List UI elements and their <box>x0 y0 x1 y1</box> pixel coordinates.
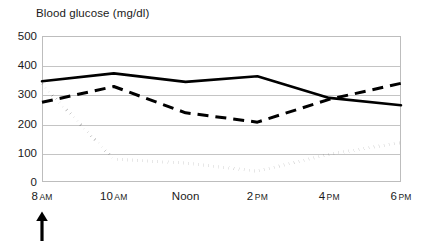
arrow-up-icon <box>34 210 50 242</box>
x-tick-6-pm: 6PM <box>390 190 411 202</box>
y-tick-100: 100 <box>3 147 37 159</box>
y-tick-0: 0 <box>3 176 37 188</box>
gridline-400 <box>43 66 400 67</box>
plot-area <box>42 36 401 182</box>
y-axis-tick-labels: 500 400 300 200 100 0 <box>0 36 37 182</box>
gridline-100 <box>43 154 400 155</box>
y-tick-200: 200 <box>3 118 37 130</box>
gridline-200 <box>43 125 400 126</box>
x-tick-2-pm: 2PM <box>247 190 268 202</box>
y-tick-400: 400 <box>3 59 37 71</box>
x-axis-tick-labels: 8AM10AMNoon2PM4PM6PM <box>0 190 423 208</box>
chart-title: Blood glucose (mg/dl) <box>36 7 149 19</box>
x-tick-8-am: 8AM <box>31 190 52 202</box>
y-tick-300: 300 <box>3 88 37 100</box>
gridline-300 <box>43 95 400 96</box>
x-tick-noon: Noon <box>172 190 200 202</box>
x-tick-4-pm: 4PM <box>319 190 340 202</box>
y-tick-500: 500 <box>3 30 37 42</box>
blood-glucose-chart-figure: Blood glucose (mg/dl) 500 400 300 200 10… <box>0 0 423 251</box>
x-tick-10-am: 10AM <box>100 190 127 202</box>
